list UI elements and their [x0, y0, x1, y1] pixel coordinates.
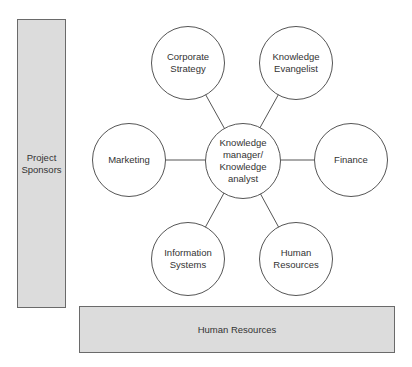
center-node-label: Knowledge manager/ Knowledge analyst — [219, 137, 266, 185]
node-label: Information Systems — [164, 247, 212, 271]
node-information-systems: Information Systems — [151, 222, 225, 296]
node-label: Marketing — [108, 154, 150, 166]
node-knowledge-evangelist: Knowledge Evangelist — [259, 26, 333, 100]
node-corporate-strategy: Corporate Strategy — [151, 26, 225, 100]
node-label: Corporate Strategy — [167, 51, 209, 75]
node-label: Human Resources — [273, 247, 318, 271]
center-node-knowledge-manager: Knowledge manager/ Knowledge analyst — [205, 123, 281, 199]
node-human-resources: Human Resources — [259, 222, 333, 296]
node-marketing: Marketing — [92, 123, 166, 197]
node-label: Knowledge Evangelist — [272, 51, 319, 75]
node-label: Finance — [334, 154, 368, 166]
node-finance: Finance — [314, 123, 388, 197]
